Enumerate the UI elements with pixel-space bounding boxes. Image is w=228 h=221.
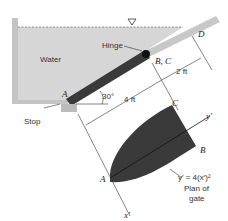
stop-leader [44,104,60,108]
x-prime-label: x′ [123,210,131,220]
gate-plan [110,105,196,182]
b-plan-label: B [200,145,206,155]
bc-label: B, C [155,56,172,66]
water-label: Water [40,55,61,64]
c-plan-label: C [172,98,179,108]
plan-label-line1: Plan of [184,184,210,193]
ext-line-d [192,36,212,70]
y-prime-label: y′ [205,111,213,121]
surface-triangle-icon [128,19,136,25]
d-label: D [197,29,205,39]
equation-label: y′ = 4(x′)² [178,173,211,182]
stop-label: Stop [24,117,41,126]
hinge-label: Hinge [102,41,123,50]
dim-4ft-label: 4 ft [124,95,136,104]
gate-diagram: Water Hinge B, C D A 30° 4 ft 2 ft Stop … [0,0,228,221]
hinge-icon [142,50,150,58]
dim-2ft-label: 2 ft [176,67,188,76]
angle-label: 30° [102,92,114,101]
a-top-label: A [61,89,68,99]
plan-label-line2: gate [189,194,205,203]
stop-block [61,104,77,112]
a-plan-label: A [99,174,106,184]
